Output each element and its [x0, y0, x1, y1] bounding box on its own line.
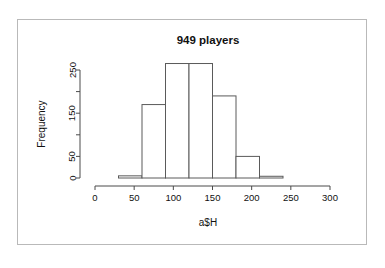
x-axis-tick-label: 100 [165, 192, 181, 203]
x-axis-tick-label: 200 [244, 192, 260, 203]
histogram-chart: 949 players 050100150200250300 050150250… [0, 0, 385, 268]
x-axis-tick-label: 300 [322, 192, 338, 203]
y-axis-tick-label: 150 [67, 105, 78, 121]
histogram-bar [213, 96, 237, 178]
chart-title: 949 players [177, 34, 240, 46]
x-axis-label: a$H [199, 217, 217, 228]
x-axis-tick-label: 150 [205, 192, 221, 203]
y-axis: 050150250 [67, 62, 81, 181]
histogram-bar [260, 176, 284, 178]
histogram-bar [166, 64, 190, 178]
y-axis-tick-label: 250 [67, 62, 78, 78]
histogram-bar [119, 176, 143, 178]
x-axis-tick-label: 0 [92, 192, 97, 203]
x-axis: 050100150200250300 [92, 186, 338, 203]
y-axis-tick-label: 50 [67, 151, 78, 162]
x-axis-tick-label: 250 [283, 192, 299, 203]
histogram-bar [236, 156, 260, 178]
y-axis-tick-label: 0 [67, 175, 78, 180]
x-axis-tick-label: 50 [129, 192, 140, 203]
histogram-bar [189, 64, 213, 178]
y-axis-label: Frequency [36, 100, 47, 147]
histogram-bar [142, 105, 166, 178]
histogram-bars [119, 64, 284, 178]
